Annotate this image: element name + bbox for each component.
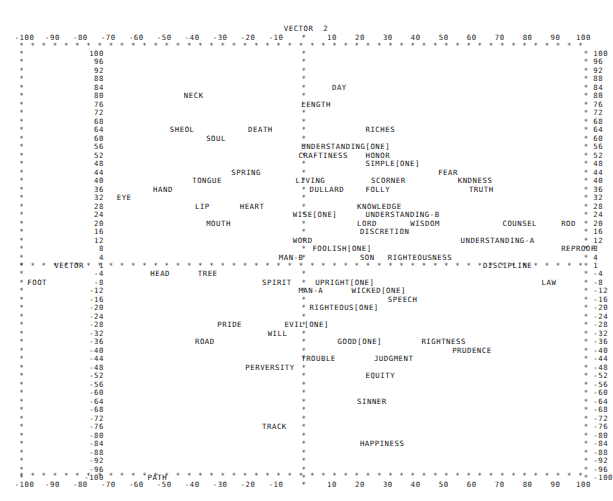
x-axis-marker-bottom: * [511, 472, 516, 481]
x-axis-marker-bottom: * [355, 472, 360, 481]
x-axis-marker-top: * [545, 42, 550, 51]
x-axis-marker-center: * [355, 262, 360, 271]
data-point-label: CRAFTINESS [298, 152, 347, 161]
data-point-label: MAN-B [279, 254, 304, 263]
x-axis-marker-top: * [142, 42, 147, 51]
x-axis-marker-top: * [578, 42, 583, 51]
x-axis-marker-top: * [42, 42, 47, 51]
data-point-label: MOUTH [206, 220, 231, 229]
x-tick-label-bottom: 90 [551, 481, 561, 490]
data-point-label: EYE [117, 194, 132, 203]
x-axis-marker-top: * [53, 42, 58, 51]
x-axis-marker-bottom: * [556, 472, 561, 481]
data-point-label: FOOT [27, 279, 47, 288]
x-tick-label-bottom: 30 [383, 481, 393, 490]
x-axis-marker-center: * [288, 262, 293, 271]
data-point-label: UNDERSTANDING-A [461, 237, 535, 246]
x-axis-marker-bottom: * [53, 472, 58, 481]
x-axis-marker-top: * [343, 42, 348, 51]
data-point-label: WISE[ONE] [293, 211, 338, 220]
x-axis-marker-center: * [276, 262, 281, 271]
x-axis-marker-top: * [478, 42, 483, 51]
x-axis-marker-bottom: * [388, 472, 393, 481]
x-axis-marker-center: * [343, 262, 348, 271]
x-tick-label-bottom: -100 [15, 481, 35, 490]
x-axis-marker-bottom: * [265, 472, 270, 481]
data-point-label: NECK [184, 92, 204, 101]
y-axis-title-left: VECTOR [54, 262, 84, 271]
x-axis-marker-center: * [433, 262, 438, 271]
x-axis-marker-top: * [109, 42, 114, 51]
x-axis-marker-top: * [176, 42, 181, 51]
x-axis-marker-bottom: * [187, 472, 192, 481]
x-axis-marker-center: * [422, 262, 427, 271]
data-point-label: EQUITY [365, 372, 395, 381]
data-point-label: FEAR [438, 169, 458, 178]
x-axis-marker-center: * [478, 262, 483, 271]
x-tick-label-bottom: 50 [439, 481, 449, 490]
x-axis-marker-center: * [97, 262, 102, 271]
x-axis-marker-top: * [243, 42, 248, 51]
data-point-label: SIMPLE[ONE] [365, 160, 419, 169]
data-point-label: TONGUE [192, 177, 222, 186]
x-axis-marker-bottom: * [433, 472, 438, 481]
x-axis-marker-bottom: * [522, 472, 527, 481]
data-point-label: RIGHTEOUS[ONE] [310, 304, 379, 313]
x-axis-marker-bottom: * [455, 472, 460, 481]
x-axis-marker-bottom: * [567, 472, 572, 481]
x-axis-marker-center: * [176, 262, 181, 271]
x-axis-marker-top: * [209, 42, 214, 51]
x-axis-marker-bottom: * [176, 472, 181, 481]
x-tick-label-bottom: 70 [495, 481, 505, 490]
data-point-label: SINNER [357, 398, 387, 407]
x-axis-marker-center: * [545, 262, 550, 271]
data-point-label: HAND [153, 186, 173, 195]
x-axis-marker-center: * [388, 262, 393, 271]
data-point-label: LENGTH [301, 101, 331, 110]
x-axis-marker-center: * [310, 262, 315, 271]
x-axis-marker-top: * [366, 42, 371, 51]
x-axis-marker-center: * [109, 262, 114, 271]
x-axis-marker-bottom: * [366, 472, 371, 481]
x-axis-marker-bottom: * [377, 472, 382, 481]
x-axis-marker-top: * [355, 42, 360, 51]
data-point-label: DAY [332, 84, 347, 93]
data-point-label: SON [360, 254, 375, 263]
x-axis-marker-top: * [198, 42, 203, 51]
x-axis-marker-center: * [30, 262, 35, 271]
x-axis-marker-bottom: * [276, 472, 281, 481]
x-axis-marker-bottom: * [75, 472, 80, 481]
x-tick-label-bottom: -90 [45, 481, 60, 490]
x-axis-marker-center: * [86, 262, 91, 271]
x-axis-marker-bottom: * [131, 472, 136, 481]
data-point-label: RIGHTEOUSNESS [388, 254, 452, 263]
x-axis-marker-top: * [220, 42, 225, 51]
x-axis-marker-bottom: * [232, 472, 237, 481]
x-axis-marker-bottom: * [545, 472, 550, 481]
x-axis-marker-bottom: * [422, 472, 427, 481]
x-tick-label-bottom: 40 [411, 481, 421, 490]
x-tick-label-bottom: 60 [467, 481, 477, 490]
x-tick-label-bottom: 10 [327, 481, 337, 490]
data-point-label: MAN-A [298, 287, 323, 296]
x-axis-marker-bottom: * [399, 472, 404, 481]
data-point-label: ROD [561, 220, 576, 229]
data-point-label: RICHES [365, 126, 395, 135]
data-point-label: COUNSEL [502, 220, 537, 229]
x-axis-marker-top: * [556, 42, 561, 51]
x-axis-marker-top: * [321, 42, 326, 51]
x-axis-marker-center: * [466, 262, 471, 271]
y-axis-marker-center: * [302, 474, 307, 483]
x-axis-marker-center: * [411, 262, 416, 271]
x-axis-marker-top: * [165, 42, 170, 51]
x-axis-marker-bottom: * [310, 472, 315, 481]
x-axis-marker-top: * [153, 42, 158, 51]
x-axis-marker-top: * [288, 42, 293, 51]
x-axis-marker-bottom: * [142, 472, 147, 481]
x-axis-marker-center: * [187, 262, 192, 271]
x-axis-marker-top: * [254, 42, 259, 51]
data-point-label: DULLARD [310, 186, 345, 195]
data-point-label: REPROOF [561, 245, 596, 254]
x-axis-marker-bottom: * [332, 472, 337, 481]
